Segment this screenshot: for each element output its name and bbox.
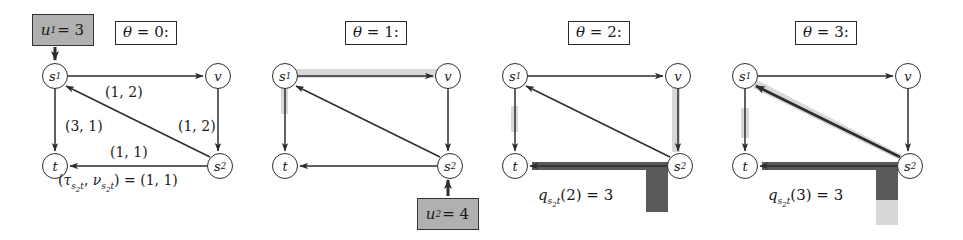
panel-theta-1: θ = 1: s1 v t s2 u2 = 4: [240, 0, 470, 240]
node-v[interactable]: v: [435, 63, 461, 89]
node-t[interactable]: t: [272, 153, 298, 179]
node-t[interactable]: t: [732, 153, 758, 179]
panel-theta-2: θ = 2: s1 v t s2 qs2t(2) = 3: [470, 0, 700, 240]
panel-3-title: θ = 3:: [795, 21, 857, 45]
node-v[interactable]: v: [895, 63, 921, 89]
node-s1[interactable]: s1: [502, 63, 528, 89]
input-box-u1[interactable]: u1 = 3: [32, 14, 94, 46]
node-t[interactable]: t: [502, 153, 528, 179]
edge-label-s2-t-definition: (τs2t, νs2t) = (1, 1): [58, 172, 178, 194]
queue-label-s2t: qs2t(2) = 3: [538, 186, 613, 209]
edge-label-s1-t: (3, 1): [65, 118, 103, 134]
panel-theta-0: θ = 0: u1 = 3 s1 v t s2 (1, 2) (3, 1) (1…: [0, 0, 240, 240]
panel-2-title: θ = 2:: [568, 21, 630, 45]
node-s2[interactable]: s2: [667, 153, 693, 179]
input-box-u2[interactable]: u2 = 4: [417, 198, 479, 230]
edge-label-s1-v: (1, 2): [105, 84, 143, 100]
node-s1[interactable]: s1: [272, 63, 298, 89]
node-s2[interactable]: s2: [437, 153, 463, 179]
edge-label-v-s2: (1, 2): [178, 118, 216, 134]
node-s1[interactable]: s1: [42, 63, 68, 89]
queue-label-s2t: qs2t(3) = 3: [768, 186, 843, 209]
figure-canvas: θ = 0: u1 = 3 s1 v t s2 (1, 2) (3, 1) (1…: [0, 0, 963, 240]
node-s2[interactable]: s2: [897, 153, 923, 179]
node-s2[interactable]: s2: [207, 153, 233, 179]
node-s1[interactable]: s1: [732, 63, 758, 89]
node-v[interactable]: v: [665, 63, 691, 89]
edge-label-s2-t: (1, 1): [110, 144, 148, 160]
panel-theta-3: θ = 3: s1 v t s2 qs2t(3) = 3: [700, 0, 963, 240]
node-v[interactable]: v: [205, 63, 231, 89]
panel-0-title: θ = 0:: [115, 21, 177, 45]
panel-1-title: θ = 1:: [345, 21, 407, 45]
